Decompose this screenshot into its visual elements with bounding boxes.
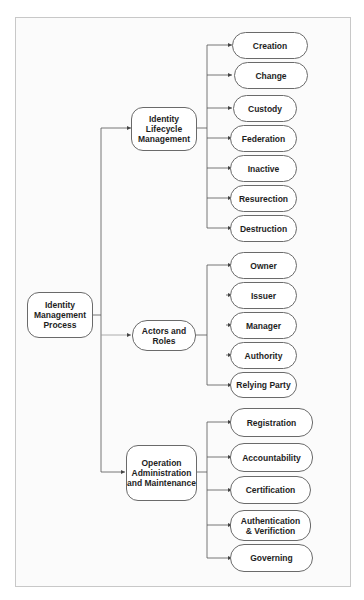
leaf-creation: Creation [232, 32, 308, 59]
node-actors-and-roles: Actors and Roles [132, 320, 196, 351]
leaf-inactive: Inactive [230, 155, 297, 182]
leaf-resurection: Resurection [230, 185, 297, 212]
leaf-certification: Certification [230, 476, 311, 504]
leaf-custody: Custody [233, 95, 297, 122]
leaf-federation: Federation [230, 125, 297, 152]
leaf-registration: Registration [230, 408, 313, 437]
leaf-issuer: Issuer [230, 282, 297, 309]
leaf-relying-party: Relying Party [230, 372, 297, 398]
node-identity-lifecycle-management: Identity Lifecycle Management [131, 107, 197, 151]
leaf-authentication-verification: Authentication & Verifiction [230, 510, 311, 541]
node-operation-administration-maintenance: Operation Administration and Maintenance [126, 445, 197, 501]
leaf-authority: Authority [230, 342, 297, 369]
leaf-accountability: Accountability [230, 443, 313, 472]
leaf-owner: Owner [230, 252, 297, 279]
node-identity-management-process: Identity Management Process [27, 292, 93, 338]
leaf-manager: Manager [230, 312, 297, 339]
leaf-destruction: Destruction [230, 215, 297, 242]
leaf-governing: Governing [230, 544, 313, 572]
leaf-change: Change [234, 62, 308, 89]
